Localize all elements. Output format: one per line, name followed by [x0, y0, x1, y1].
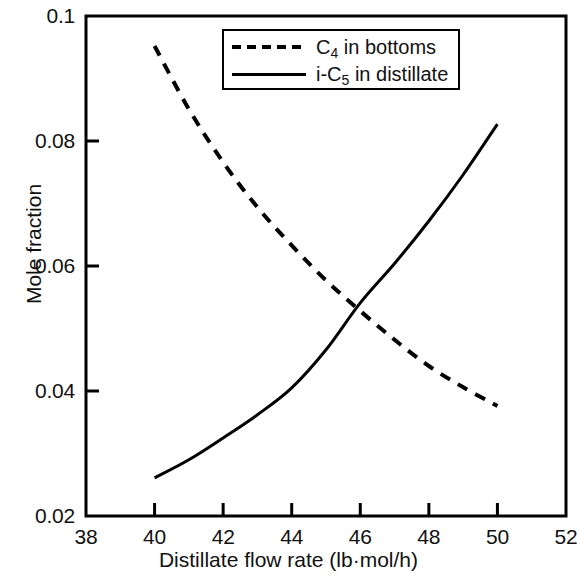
- legend-label-main-0: C: [316, 36, 330, 58]
- x-tick-label-40: 40: [143, 525, 166, 549]
- legend-entry-ic5-in-distillate: i-C5 in distillate: [232, 61, 448, 87]
- x-tick-label-44: 44: [280, 525, 303, 549]
- legend-label-sub-0: 4: [330, 45, 338, 61]
- y-axis-title: Mole fraction: [22, 114, 46, 374]
- axes-frame: [86, 16, 566, 516]
- x-tick-label-46: 46: [349, 525, 372, 549]
- legend-entry-c4-in-bottoms: C4 in bottoms: [232, 34, 436, 60]
- legend: C4 in bottoms i-C5 in distillate: [222, 29, 460, 90]
- legend-swatch-solid: [232, 73, 306, 76]
- legend-label-tail-0: in bottoms: [338, 36, 436, 58]
- legend-label-ic5-in-distillate: i-C5 in distillate: [316, 64, 448, 84]
- legend-label-sub-1: 5: [342, 72, 350, 88]
- x-axis-title: Distillate flow rate (lb·mol/h): [0, 548, 577, 572]
- legend-swatch-dashed: [232, 45, 306, 49]
- x-tick-label-38: 38: [75, 525, 98, 549]
- legend-label-tail-1: in distillate: [349, 63, 448, 85]
- x-tick-label-42: 42: [212, 525, 235, 549]
- y-tick-label-0.1: 0.1: [0, 4, 75, 28]
- plot-frame: [86, 16, 566, 516]
- chart-figure: 0.020.040.060.080.1 3840424446485052 Dis…: [0, 0, 577, 576]
- legend-label-c4-in-bottoms: C4 in bottoms: [316, 37, 436, 57]
- legend-label-main-1: i-C: [316, 63, 342, 85]
- x-tick-label-48: 48: [417, 525, 440, 549]
- y-tick-label-0.02: 0.02: [0, 504, 75, 528]
- x-tick-label-52: 52: [555, 525, 577, 549]
- x-tick-label-50: 50: [486, 525, 509, 549]
- y-tick-label-0.04: 0.04: [0, 379, 75, 403]
